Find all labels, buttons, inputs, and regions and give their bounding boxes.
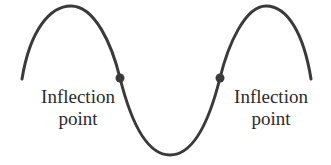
sine-curve [22,6,311,155]
sine-curve-diagram [0,0,331,165]
right-label-line2: point [226,108,316,130]
left-inflection-point [116,74,125,83]
left-label-line2: point [33,108,123,130]
right-inflection-point [216,74,225,83]
right-label-line1: Inflection [226,86,316,108]
left-inflection-label: Inflection point [33,86,123,130]
left-label-line1: Inflection [33,86,123,108]
right-inflection-label: Inflection point [226,86,316,130]
